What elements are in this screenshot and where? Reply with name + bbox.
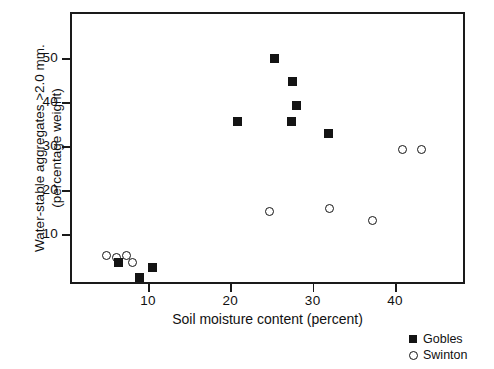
x-tick-30 [313, 284, 315, 292]
data-point-swinton [102, 251, 111, 260]
legend-label-gobles: Gobles [423, 332, 463, 346]
data-point-swinton [417, 145, 426, 154]
data-point-gobles [135, 273, 144, 282]
x-tick-label-10: 10 [128, 293, 168, 308]
x-tick-label-30: 30 [293, 293, 333, 308]
data-point-gobles [233, 117, 242, 126]
data-point-gobles [288, 77, 297, 86]
data-point-gobles [324, 129, 333, 138]
x-axis-label: Soil moisture content (percent) [70, 311, 465, 327]
x-tick-label-40: 40 [375, 293, 415, 308]
data-point-gobles [287, 117, 296, 126]
x-tick-20 [230, 284, 232, 292]
data-point-gobles [292, 101, 301, 110]
data-point-swinton [265, 207, 274, 216]
x-tick-label-20: 20 [210, 293, 250, 308]
legend-label-swinton: Swinton [423, 348, 467, 362]
data-point-swinton [128, 258, 137, 267]
legend-item-swinton: Swinton [409, 347, 467, 363]
data-point-swinton [398, 145, 407, 154]
y-axis-label: Water-stable aggregates >2.0 mm. (percen… [31, 13, 71, 283]
y-axis-label-line1: Water-stable aggregates >2.0 mm. [31, 13, 48, 283]
data-point-gobles [270, 54, 279, 63]
filled-square-icon [409, 335, 417, 343]
chart-figure: 102030401020304050 Soil moisture content… [0, 0, 494, 369]
legend: Gobles Swinton [409, 331, 467, 363]
x-tick-10 [148, 284, 150, 292]
data-point-gobles [148, 263, 157, 272]
legend-item-gobles: Gobles [409, 331, 467, 347]
data-point-swinton [112, 253, 121, 262]
open-circle-icon [409, 351, 418, 360]
x-tick-40 [395, 284, 397, 292]
y-axis-label-line2: (percentage weight) [48, 13, 65, 283]
